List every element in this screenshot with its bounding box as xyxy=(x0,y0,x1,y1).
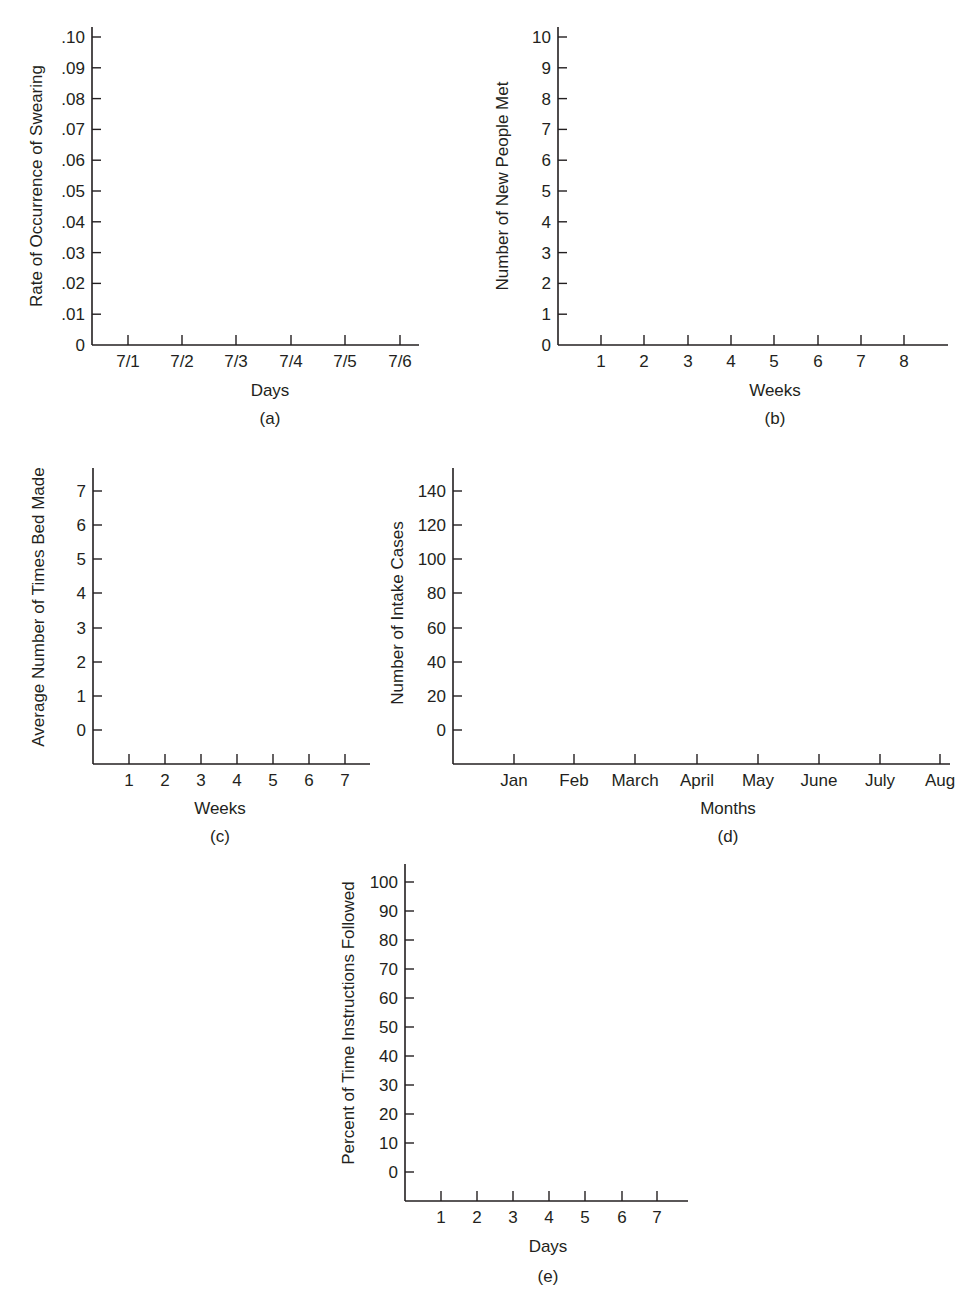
y-tick-label: .07 xyxy=(61,120,85,139)
x-axis-title: Weeks xyxy=(194,799,246,818)
y-axis-title: Rate of Occurrence of Swearing xyxy=(27,65,46,307)
x-tick-label: 7 xyxy=(652,1208,661,1227)
y-tick-label: 5 xyxy=(542,182,551,201)
x-tick-label: 5 xyxy=(580,1208,589,1227)
x-tick-label: 3 xyxy=(508,1208,517,1227)
y-tick-label: 80 xyxy=(379,931,398,950)
y-tick-label: .01 xyxy=(61,305,85,324)
figure-blank-graph-templates: Rate of Occurrence of Swearing Days (a) … xyxy=(0,0,980,1312)
y-tick-label: 100 xyxy=(418,550,446,569)
y-tick-label: 4 xyxy=(542,213,551,232)
x-axis-title: Weeks xyxy=(749,381,801,400)
x-axis-title: Days xyxy=(251,381,290,400)
x-tick-label: 5 xyxy=(769,352,778,371)
y-tick-label: 4 xyxy=(77,584,86,603)
y-tick-label: 90 xyxy=(379,902,398,921)
x-tick-label: May xyxy=(742,771,775,790)
panel-label: (c) xyxy=(210,827,230,846)
x-tick-label: March xyxy=(611,771,658,790)
y-tick-label: 1 xyxy=(77,687,86,706)
chart-panel-a: Rate of Occurrence of Swearing Days (a) … xyxy=(27,27,419,428)
x-tick-label: 7/4 xyxy=(279,352,303,371)
y-tick-label: 100 xyxy=(370,873,398,892)
y-tick-label: .10 xyxy=(61,28,85,47)
x-tick-label: 5 xyxy=(268,771,277,790)
x-axis-title: Months xyxy=(700,799,756,818)
y-axis-title: Number of New People Met xyxy=(493,81,512,290)
y-tick-label: 0 xyxy=(389,1163,398,1182)
y-tick-label: 6 xyxy=(77,516,86,535)
y-tick-label: 6 xyxy=(542,151,551,170)
x-tick-label: Aug xyxy=(925,771,955,790)
y-tick-label: 8 xyxy=(542,90,551,109)
chart-panel-e: Percent of Time Instructions Followed Da… xyxy=(339,864,688,1286)
y-tick-label: 1 xyxy=(542,305,551,324)
y-tick-label: 20 xyxy=(379,1105,398,1124)
x-tick-label: Feb xyxy=(559,771,588,790)
x-tick-label: 6 xyxy=(813,352,822,371)
x-tick-label: July xyxy=(865,771,896,790)
y-tick-label: 60 xyxy=(427,619,446,638)
x-tick-label: 7/2 xyxy=(170,352,194,371)
x-tick-label: 8 xyxy=(899,352,908,371)
y-tick-label: 0 xyxy=(542,336,551,355)
x-tick-label: Jan xyxy=(500,771,527,790)
x-tick-label: 6 xyxy=(617,1208,626,1227)
y-tick-label: 80 xyxy=(427,584,446,603)
y-tick-label: .05 xyxy=(61,182,85,201)
y-axis-title: Number of Intake Cases xyxy=(388,521,407,704)
y-tick-label: 40 xyxy=(427,653,446,672)
y-tick-label: 0 xyxy=(77,721,86,740)
y-tick-label: .06 xyxy=(61,151,85,170)
x-tick-label: 4 xyxy=(232,771,241,790)
panel-label: (d) xyxy=(718,827,739,846)
x-tick-label: 7 xyxy=(856,352,865,371)
y-tick-label: 20 xyxy=(427,687,446,706)
y-tick-label: 2 xyxy=(542,274,551,293)
x-tick-label: 7/1 xyxy=(116,352,140,371)
x-axis-title: Days xyxy=(529,1237,568,1256)
panel-label: (e) xyxy=(538,1267,559,1286)
y-tick-label: 5 xyxy=(77,550,86,569)
x-tick-label: 3 xyxy=(196,771,205,790)
y-tick-label: 120 xyxy=(418,516,446,535)
x-tick-label: 7/3 xyxy=(224,352,248,371)
y-tick-label: 3 xyxy=(77,619,86,638)
x-tick-label: 4 xyxy=(544,1208,553,1227)
y-tick-label: 2 xyxy=(77,653,86,672)
y-tick-label: 9 xyxy=(542,59,551,78)
y-axis-title: Average Number of Times Bed Made xyxy=(29,467,48,746)
y-tick-label: 40 xyxy=(379,1047,398,1066)
chart-panel-b: Number of New People Met Weeks (b) 01234… xyxy=(493,27,948,428)
x-tick-label: 7/6 xyxy=(388,352,412,371)
y-tick-label: 0 xyxy=(76,336,85,355)
panel-label: (b) xyxy=(765,409,786,428)
x-tick-label: 7/5 xyxy=(333,352,357,371)
x-tick-label: 1 xyxy=(124,771,133,790)
x-tick-label: 3 xyxy=(683,352,692,371)
x-tick-label: 2 xyxy=(160,771,169,790)
x-tick-label: 6 xyxy=(304,771,313,790)
panel-label: (a) xyxy=(260,409,281,428)
y-tick-label: 60 xyxy=(379,989,398,1008)
y-tick-label: 7 xyxy=(77,482,86,501)
chart-panel-d: Number of Intake Cases Months (d) 020406… xyxy=(388,468,955,846)
y-tick-label: .08 xyxy=(61,90,85,109)
y-tick-label: 140 xyxy=(418,482,446,501)
x-tick-label: 4 xyxy=(726,352,735,371)
y-axis-title: Percent of Time Instructions Followed xyxy=(339,881,358,1164)
x-tick-label: 7 xyxy=(340,771,349,790)
x-tick-label: 1 xyxy=(596,352,605,371)
y-tick-label: 70 xyxy=(379,960,398,979)
y-tick-label: 30 xyxy=(379,1076,398,1095)
x-tick-label: June xyxy=(801,771,838,790)
y-tick-label: 10 xyxy=(532,28,551,47)
x-tick-label: April xyxy=(680,771,714,790)
y-tick-label: 3 xyxy=(542,244,551,263)
y-tick-label: 7 xyxy=(542,120,551,139)
x-tick-label: 2 xyxy=(639,352,648,371)
y-tick-label: .09 xyxy=(61,59,85,78)
y-tick-label: 10 xyxy=(379,1134,398,1153)
y-tick-label: 50 xyxy=(379,1018,398,1037)
x-tick-label: 2 xyxy=(472,1208,481,1227)
